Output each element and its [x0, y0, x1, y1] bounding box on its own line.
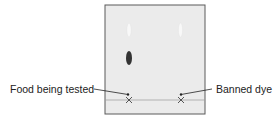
- leader-dot-food: [127, 93, 129, 95]
- label-banned-dye: Banned dye: [216, 83, 272, 95]
- chromatography-diagram: Food being tested Banned dye: [0, 0, 278, 122]
- faint-spot-banned-dye: [178, 23, 182, 37]
- leader-dot-banned-dye: [180, 93, 182, 95]
- label-food-being-tested: Food being tested: [10, 83, 94, 95]
- chromatography-paper: [105, 5, 205, 114]
- faint-spot-food: [127, 23, 131, 37]
- dark-spot-food: [126, 51, 132, 65]
